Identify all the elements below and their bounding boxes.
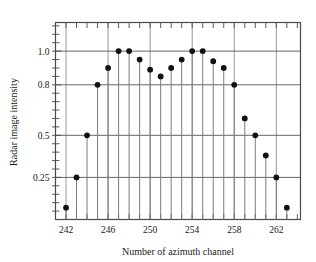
- data-point: [200, 48, 206, 54]
- radar-intensity-scatter-chart: 242246250254258262 0.250.50.81.0 Number …: [0, 0, 316, 262]
- data-point: [74, 175, 80, 181]
- x-tick-label: 246: [101, 225, 116, 235]
- data-point: [137, 57, 143, 63]
- data-point: [116, 48, 122, 54]
- data-point: [179, 57, 185, 63]
- y-tick-label: 0.8: [38, 80, 50, 90]
- x-tick-label: 254: [185, 225, 200, 235]
- data-point: [210, 58, 216, 64]
- data-point: [231, 82, 237, 88]
- data-point: [273, 175, 279, 181]
- data-point: [158, 73, 164, 79]
- x-tick-label: 258: [227, 225, 242, 235]
- data-point: [189, 48, 195, 54]
- y-tick-label: 0.25: [33, 173, 50, 183]
- data-point: [95, 82, 101, 88]
- x-axis-title: Number of azimuth channel: [122, 246, 234, 257]
- data-point: [252, 132, 258, 138]
- x-tick-label: 242: [59, 225, 74, 235]
- x-tick-label: 250: [143, 225, 158, 235]
- data-point: [126, 48, 132, 54]
- y-tick-label: 1.0: [38, 47, 50, 57]
- data-point: [147, 67, 153, 73]
- data-point: [168, 65, 174, 71]
- x-tick-label: 262: [269, 225, 284, 235]
- y-axis-title: Radar image intensity: [8, 78, 19, 166]
- data-point: [105, 65, 111, 71]
- data-point: [84, 132, 90, 138]
- data-point: [263, 153, 269, 159]
- data-point: [242, 116, 248, 122]
- data-point: [63, 205, 69, 211]
- chart-figure: 242246250254258262 0.250.50.81.0 Number …: [0, 0, 316, 262]
- data-point: [221, 65, 227, 71]
- data-point: [284, 205, 290, 211]
- y-tick-label: 0.5: [38, 131, 50, 141]
